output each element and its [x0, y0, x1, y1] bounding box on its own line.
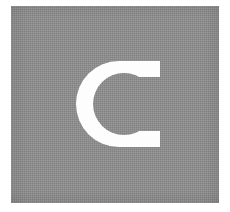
image-canvas: C	[0, 0, 230, 212]
letter-c-fill	[0, 0, 230, 212]
letter-c-graphic	[0, 0, 230, 212]
